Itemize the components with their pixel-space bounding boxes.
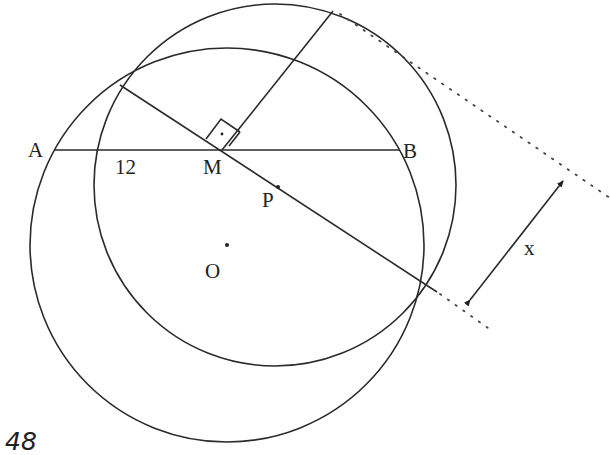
point-o (225, 243, 229, 247)
second-circle (94, 4, 456, 366)
label-a: A (28, 138, 44, 162)
dotted-line-lower (440, 294, 488, 328)
perpendicular-line (222, 11, 333, 150)
page-number: 48 (5, 427, 37, 455)
point-p (276, 185, 280, 189)
geometry-diagram: A B M 12 P O x 48 (0, 0, 610, 455)
label-o: O (205, 259, 220, 283)
distance-x-arrow (470, 181, 563, 300)
dotted-line-upper (340, 14, 610, 198)
label-b: B (403, 139, 417, 163)
label-x: x (524, 236, 535, 260)
label-m: M (203, 155, 222, 179)
label-segment-am: 12 (115, 155, 136, 179)
label-p: P (262, 188, 274, 212)
right-angle-dot (221, 133, 224, 136)
right-angle-marker (206, 119, 240, 139)
